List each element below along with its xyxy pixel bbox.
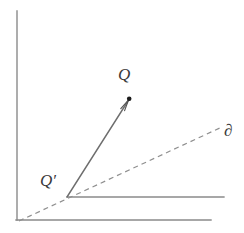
point-q-prime-label: Q′ [40,172,56,189]
displacement-arrow-shaft [67,101,128,197]
point-q-label: Q [118,66,130,83]
point-q-marker [127,97,132,102]
diagram-svg [0,0,244,233]
boundary-partial-label: ∂ [224,122,232,139]
figure-canvas: Q Q′ ∂ [0,0,244,233]
